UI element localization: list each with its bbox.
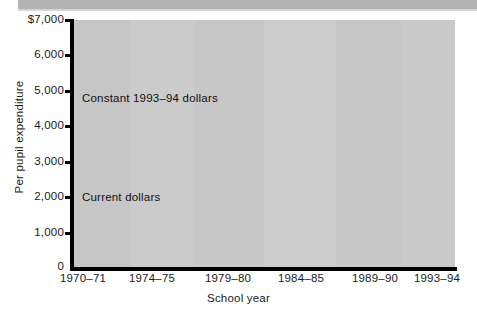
y-tick-label: 5,000 bbox=[2, 84, 64, 96]
plot-band bbox=[264, 20, 336, 268]
y-tick-mark bbox=[65, 232, 74, 235]
x-tick-label: 1993–94 bbox=[399, 272, 475, 284]
x-tick-label: 1984–85 bbox=[263, 272, 339, 284]
x-tick-label: 1979–80 bbox=[190, 272, 266, 284]
y-tick-mark bbox=[65, 125, 74, 128]
top-banner-strip bbox=[18, 0, 477, 9]
plot-area: Constant 1993–94 dollars Current dollars bbox=[74, 20, 455, 268]
x-tick-label: 1974–75 bbox=[114, 272, 190, 284]
plot-band bbox=[194, 20, 264, 268]
y-tick-label: 0 bbox=[2, 260, 64, 272]
y-tick-mark bbox=[65, 90, 74, 93]
x-tick-label: 1970–71 bbox=[45, 272, 121, 284]
y-tick-mark bbox=[65, 196, 74, 199]
y-tick-label: 3,000 bbox=[2, 155, 64, 167]
x-axis-title: School year bbox=[0, 292, 477, 304]
y-tick-label: $7,000 bbox=[2, 13, 64, 25]
y-tick-label: 6,000 bbox=[2, 48, 64, 60]
plot-band bbox=[336, 20, 402, 268]
plot-band bbox=[74, 20, 130, 268]
y-axis-title: Per pupil expenditure bbox=[13, 52, 25, 222]
plot-band bbox=[402, 20, 455, 268]
y-tick-mark bbox=[65, 54, 74, 57]
y-tick-label: 1,000 bbox=[2, 226, 64, 238]
y-tick-mark bbox=[65, 161, 74, 164]
top-banner-shadow bbox=[18, 9, 477, 11]
chart-figure: Constant 1993–94 dollars Current dollars… bbox=[0, 0, 477, 312]
y-tick-label: 4,000 bbox=[2, 119, 64, 131]
series-annotation-constant: Constant 1993–94 dollars bbox=[82, 92, 218, 104]
series-annotation-current: Current dollars bbox=[82, 191, 160, 203]
plot-band bbox=[130, 20, 194, 268]
y-tick-mark bbox=[65, 19, 74, 22]
y-tick-label: 2,000 bbox=[2, 190, 64, 202]
x-axis-line bbox=[70, 267, 457, 271]
